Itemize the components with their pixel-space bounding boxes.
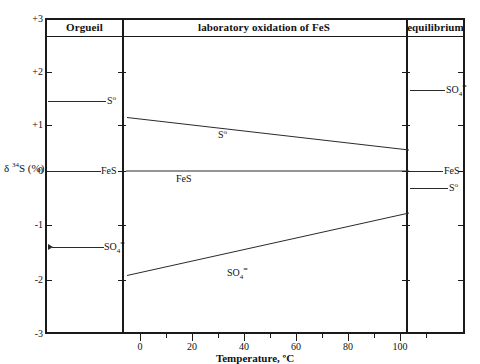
y-tick-inner-minus1 (118, 225, 126, 226)
y-tick-plus1 (45, 125, 52, 126)
equilibrium-level-fes (410, 171, 443, 172)
x-tick-minor-30 (218, 334, 219, 338)
y-tick-right-plus1 (458, 125, 465, 126)
equilibrium-level-s0 (410, 188, 448, 189)
x-tick-20 (192, 334, 193, 341)
orgueil-level-so4 (52, 247, 104, 248)
orgueil-so4-arrow-icon (48, 244, 53, 250)
panel-title-equilibrium: equilibrium (406, 19, 465, 36)
x-tick-60 (296, 334, 297, 341)
y-axis-title-rest: S (%) (19, 162, 44, 174)
orgueil-level-s0 (48, 101, 106, 102)
x-tick-label-40: 40 (229, 342, 259, 352)
orgueil-level-fes (48, 171, 101, 172)
panel-divider-left (122, 18, 124, 334)
equilibrium-label-so4-text: SO (446, 84, 459, 95)
lab-label-so4-sub: 4 (240, 273, 244, 281)
y-tick-label-minus3: -3 (19, 329, 43, 339)
y-axis-title-mass: 34 (12, 161, 19, 169)
y-tick-label-plus3: +3 (19, 14, 43, 24)
x-tick-80 (348, 334, 349, 341)
x-tick-minor-90 (374, 334, 375, 338)
x-tick-minor-70 (322, 334, 323, 338)
y-tick-inner-minus2 (118, 280, 126, 281)
lab-label-so4: SO4= (227, 268, 247, 278)
y-tick-right-plus2 (458, 72, 465, 73)
y-tick-inner-plus1 (118, 125, 126, 126)
y-tick-inner2-zero (402, 171, 410, 172)
lab-label-so4-charge: = (243, 265, 247, 274)
panel-title-laboratory-oxidation: laboratory oxidation of FeS (122, 19, 406, 36)
y-tick-inner2-plus2 (402, 72, 410, 73)
x-tick-minor-10 (166, 334, 167, 338)
lab-label-fes: FeS (176, 174, 192, 184)
x-tick-label-100: 100 (385, 342, 415, 352)
y-tick-label-plus2: +2 (19, 67, 43, 77)
equilibrium-label-so4-sub: 4 (459, 90, 463, 98)
y-tick-right-minus2 (458, 280, 465, 281)
x-tick-label-80: 80 (333, 342, 363, 352)
x-tick-100 (400, 334, 401, 341)
y-tick-label-minus1: -1 (19, 220, 43, 230)
lab-label-s0-sup: o (224, 128, 228, 136)
x-tick-minor-50 (270, 334, 271, 338)
x-tick-0 (140, 334, 141, 341)
y-tick-inner-plus2 (118, 72, 126, 73)
y-tick-minus2 (45, 280, 52, 281)
equilibrium-label-s0: So (449, 183, 458, 193)
plot-frame (45, 18, 465, 334)
orgueil-label-so4-sub: 4 (117, 247, 121, 255)
x-tick-minor-110 (426, 334, 427, 338)
orgueil-label-s0-sup: o (113, 94, 117, 102)
x-tick-label-60: 60 (281, 342, 311, 352)
x-tick-label-20: 20 (177, 342, 207, 352)
y-axis-title: δ 34S (%) (4, 162, 82, 174)
equilibrium-label-fes: FeS (444, 166, 460, 176)
equilibrium-label-so4: SO4= (446, 85, 466, 95)
panel-title-orgueil: Orgueil (47, 19, 122, 36)
orgueil-label-so4: SO4= (104, 242, 124, 252)
x-tick-40 (244, 334, 245, 341)
x-tick-label-0: 0 (125, 342, 155, 352)
y-tick-label-plus1: +1 (19, 120, 43, 130)
y-tick-inner2-minus2 (402, 280, 410, 281)
panel-divider-right (406, 18, 408, 334)
y-tick-right-minus1 (458, 225, 465, 226)
orgueil-label-so4-charge: = (120, 239, 124, 248)
orgueil-label-fes: FeS (101, 166, 117, 176)
x-axis-title: Temperature, ºC (45, 352, 465, 364)
orgueil-label-so4-text: SO (104, 241, 117, 252)
y-tick-plus2 (45, 72, 52, 73)
y-tick-inner2-plus1 (402, 125, 410, 126)
orgueil-label-s0: So (107, 96, 116, 106)
y-tick-label-minus2: -2 (19, 275, 43, 285)
equilibrium-level-so4 (410, 90, 445, 91)
y-tick-minus1 (45, 225, 52, 226)
lab-label-so4-text: SO (227, 267, 240, 278)
y-tick-inner2-minus1 (402, 225, 410, 226)
lab-label-s0: So (218, 130, 227, 140)
y-tick-inner-zero (118, 171, 126, 172)
equilibrium-label-s0-sup: o (455, 181, 459, 189)
equilibrium-label-so4-charge: = (462, 82, 466, 91)
header-separator-rule (45, 36, 465, 37)
